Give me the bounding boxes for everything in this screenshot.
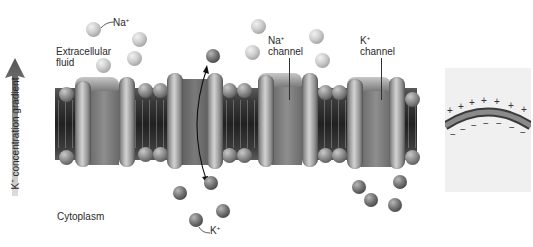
lipid-head xyxy=(153,83,168,98)
negative-charge: − xyxy=(483,119,489,129)
lipid-head xyxy=(138,83,153,98)
negative-charge: − xyxy=(509,123,515,133)
k-leader-line xyxy=(198,226,212,236)
na-ion-label-charge: + xyxy=(126,17,130,23)
na-channel-label-text: channel xyxy=(268,46,303,57)
k-channel-label: K+ channel xyxy=(360,35,395,57)
k-ion xyxy=(189,213,203,227)
na-ion xyxy=(251,19,266,34)
channel-core xyxy=(272,85,302,165)
k-ion-label-charge: + xyxy=(217,225,221,231)
na-ion xyxy=(86,22,101,37)
positive-charge: + xyxy=(458,102,464,112)
k-ion xyxy=(173,186,187,200)
curved-membrane xyxy=(445,68,531,192)
k-channel-label-ion: K xyxy=(360,35,367,46)
lipid-head xyxy=(237,148,252,163)
negative-charge: − xyxy=(496,119,502,129)
k-ion xyxy=(364,193,378,207)
k-ion xyxy=(206,49,220,63)
channel-subunit xyxy=(258,75,274,167)
k-ion xyxy=(393,175,407,189)
positive-charge: + xyxy=(469,98,475,108)
k-channel-leader xyxy=(381,58,382,100)
lipid-head xyxy=(222,83,237,98)
lipid-head xyxy=(59,87,74,102)
na-channel-label-ion: Na xyxy=(268,35,281,46)
lipid-head xyxy=(318,85,333,100)
channel-core xyxy=(361,89,391,167)
channel-subunit xyxy=(302,73,318,167)
k-channel-label-text: channel xyxy=(360,46,395,57)
membrane-potential-inset: + + + + + + + − − − − − − − xyxy=(445,68,531,192)
k-ion xyxy=(204,176,218,190)
channel-subunit xyxy=(167,73,183,169)
na-ion xyxy=(96,58,111,73)
channel-subunit xyxy=(389,77,405,169)
k-ion xyxy=(216,204,230,218)
channel-subunit xyxy=(347,79,363,169)
ion-flow-arrow xyxy=(185,60,215,190)
negative-charge: − xyxy=(520,128,526,138)
positive-charge: + xyxy=(521,105,527,115)
gradient-label-ion: K xyxy=(10,183,21,190)
na-ion xyxy=(245,45,260,60)
positive-charge: + xyxy=(481,96,487,106)
channel-subunit xyxy=(119,77,135,167)
lipid-head xyxy=(237,83,252,98)
lipid-head xyxy=(332,148,347,163)
gradient-label: K+ concentration gradient xyxy=(10,59,21,209)
k-ion xyxy=(388,198,402,212)
lipid-head xyxy=(59,150,74,165)
na-ion xyxy=(127,51,142,66)
k-ion xyxy=(352,180,366,194)
positive-charge: + xyxy=(508,101,514,111)
gradient-label-text: concentration gradient xyxy=(10,78,21,180)
na-channel-label-charge: + xyxy=(281,35,285,41)
negative-charge: − xyxy=(450,130,456,140)
ion-channel-left xyxy=(75,77,137,169)
negative-charge: − xyxy=(471,121,477,131)
negative-charge: − xyxy=(460,125,466,135)
na-channel-leader xyxy=(289,58,290,100)
lipid-head xyxy=(153,147,168,162)
lipid-head xyxy=(222,148,237,163)
na-leader-line xyxy=(100,20,116,30)
k-channel-label-charge: + xyxy=(367,35,371,41)
channel-subunit xyxy=(75,81,91,167)
cytoplasm-label: Cytoplasm xyxy=(57,211,104,222)
positive-charge: + xyxy=(447,106,453,116)
lipid-head xyxy=(138,147,153,162)
gradient-label-charge: + xyxy=(9,179,15,183)
positive-charge: + xyxy=(494,97,500,107)
na-channel-label: Na+ channel xyxy=(268,35,303,57)
lipid-head xyxy=(332,85,347,100)
na-ion xyxy=(315,53,330,68)
channel-core xyxy=(89,89,119,165)
lipid-head xyxy=(318,148,333,163)
k-channel xyxy=(347,77,409,171)
na-ion xyxy=(132,32,147,47)
na-ion xyxy=(309,29,324,44)
extracellular-line1: Extracellular xyxy=(56,46,111,57)
